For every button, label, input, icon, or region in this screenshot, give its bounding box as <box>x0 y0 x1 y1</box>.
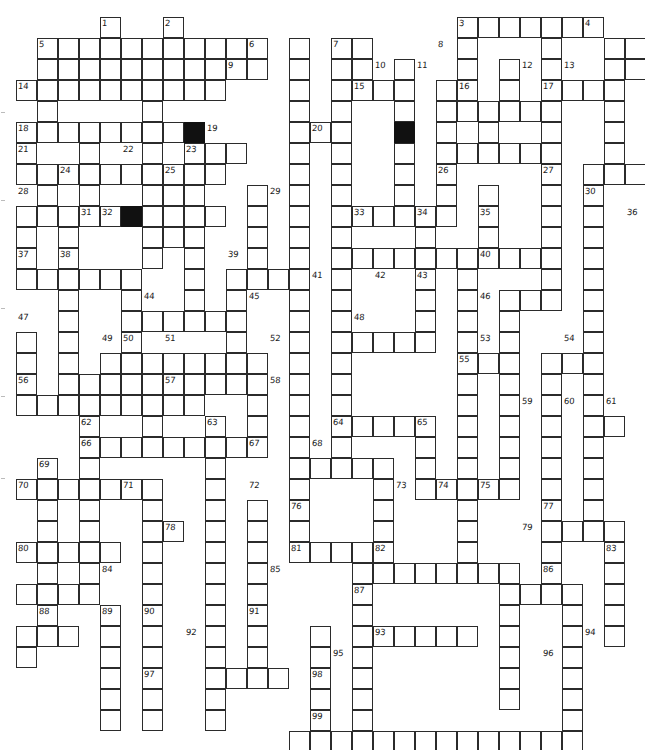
crossword-cell[interactable] <box>289 353 310 374</box>
crossword-cell[interactable] <box>499 731 520 750</box>
crossword-cell[interactable] <box>142 395 163 416</box>
crossword-cell[interactable] <box>604 122 625 143</box>
crossword-cell[interactable] <box>457 332 478 353</box>
crossword-cell[interactable] <box>583 353 604 374</box>
crossword-cell[interactable] <box>163 206 184 227</box>
crossword-cell[interactable] <box>604 101 625 122</box>
crossword-cell[interactable] <box>142 59 163 80</box>
crossword-cell[interactable] <box>436 626 457 647</box>
crossword-cell[interactable] <box>541 500 562 521</box>
crossword-cell[interactable] <box>142 437 163 458</box>
crossword-cell[interactable] <box>541 437 562 458</box>
crossword-cell[interactable] <box>331 374 352 395</box>
crossword-cell[interactable] <box>310 710 331 731</box>
crossword-cell[interactable] <box>499 374 520 395</box>
crossword-cell[interactable] <box>499 689 520 710</box>
crossword-cell[interactable] <box>205 668 226 689</box>
crossword-cell[interactable] <box>79 59 100 80</box>
crossword-cell[interactable] <box>79 269 100 290</box>
crossword-cell[interactable] <box>16 353 37 374</box>
crossword-cell[interactable] <box>520 101 541 122</box>
crossword-cell[interactable] <box>583 479 604 500</box>
crossword-cell[interactable] <box>394 248 415 269</box>
crossword-cell[interactable] <box>562 605 583 626</box>
crossword-cell[interactable] <box>415 227 436 248</box>
crossword-cell[interactable] <box>541 80 562 101</box>
crossword-cell[interactable] <box>457 542 478 563</box>
crossword-cell[interactable] <box>142 227 163 248</box>
crossword-cell[interactable] <box>604 416 625 437</box>
crossword-cell[interactable] <box>247 647 268 668</box>
crossword-cell[interactable] <box>310 731 331 750</box>
crossword-cell[interactable] <box>394 416 415 437</box>
crossword-cell[interactable] <box>121 374 142 395</box>
crossword-cell[interactable] <box>58 479 79 500</box>
crossword-cell[interactable] <box>562 17 583 38</box>
crossword-cell[interactable] <box>79 38 100 59</box>
crossword-cell[interactable] <box>541 269 562 290</box>
crossword-cell[interactable] <box>16 542 37 563</box>
crossword-cell[interactable] <box>415 458 436 479</box>
crossword-cell[interactable] <box>289 416 310 437</box>
crossword-cell[interactable] <box>478 101 499 122</box>
crossword-grid[interactable]: 1234567891011121314151617181920212223242… <box>0 0 645 750</box>
crossword-cell[interactable] <box>373 731 394 750</box>
crossword-cell[interactable] <box>457 311 478 332</box>
crossword-cell[interactable] <box>226 437 247 458</box>
crossword-cell[interactable] <box>79 143 100 164</box>
crossword-cell[interactable] <box>289 206 310 227</box>
crossword-cell[interactable] <box>37 458 58 479</box>
crossword-cell[interactable] <box>562 647 583 668</box>
crossword-cell[interactable] <box>163 374 184 395</box>
crossword-cell[interactable] <box>436 206 457 227</box>
crossword-cell[interactable] <box>79 164 100 185</box>
crossword-cell[interactable] <box>142 542 163 563</box>
crossword-cell[interactable] <box>100 353 121 374</box>
crossword-cell[interactable] <box>499 458 520 479</box>
crossword-cell[interactable] <box>100 542 121 563</box>
crossword-cell[interactable] <box>520 731 541 750</box>
crossword-cell[interactable] <box>352 458 373 479</box>
crossword-cell[interactable] <box>331 101 352 122</box>
crossword-cell[interactable] <box>604 59 625 80</box>
crossword-cell[interactable] <box>184 59 205 80</box>
crossword-cell[interactable] <box>520 584 541 605</box>
crossword-cell[interactable] <box>415 731 436 750</box>
crossword-cell[interactable] <box>142 521 163 542</box>
crossword-cell[interactable] <box>58 206 79 227</box>
crossword-cell[interactable] <box>520 143 541 164</box>
crossword-cell[interactable] <box>247 395 268 416</box>
crossword-cell[interactable] <box>100 668 121 689</box>
crossword-cell[interactable] <box>352 542 373 563</box>
crossword-cell[interactable] <box>100 479 121 500</box>
crossword-cell[interactable] <box>625 38 645 59</box>
crossword-cell[interactable] <box>142 626 163 647</box>
crossword-cell[interactable] <box>583 80 604 101</box>
crossword-cell[interactable] <box>205 500 226 521</box>
crossword-cell[interactable] <box>457 38 478 59</box>
crossword-cell[interactable] <box>163 311 184 332</box>
crossword-cell[interactable] <box>562 80 583 101</box>
crossword-cell[interactable] <box>541 185 562 206</box>
crossword-cell[interactable] <box>457 59 478 80</box>
crossword-cell[interactable] <box>163 185 184 206</box>
crossword-cell[interactable] <box>352 731 373 750</box>
crossword-cell[interactable] <box>121 332 142 353</box>
crossword-cell[interactable] <box>289 479 310 500</box>
crossword-cell[interactable] <box>163 227 184 248</box>
crossword-cell[interactable] <box>16 584 37 605</box>
crossword-cell[interactable] <box>457 17 478 38</box>
crossword-cell[interactable] <box>16 206 37 227</box>
crossword-cell[interactable] <box>37 122 58 143</box>
crossword-cell[interactable] <box>436 164 457 185</box>
crossword-cell[interactable] <box>373 80 394 101</box>
crossword-cell[interactable] <box>79 542 100 563</box>
crossword-cell[interactable] <box>457 353 478 374</box>
crossword-cell[interactable] <box>142 206 163 227</box>
crossword-cell[interactable] <box>394 143 415 164</box>
crossword-cell[interactable] <box>205 164 226 185</box>
crossword-cell[interactable] <box>352 605 373 626</box>
crossword-cell[interactable] <box>142 101 163 122</box>
crossword-cell[interactable] <box>184 80 205 101</box>
crossword-cell[interactable] <box>16 332 37 353</box>
